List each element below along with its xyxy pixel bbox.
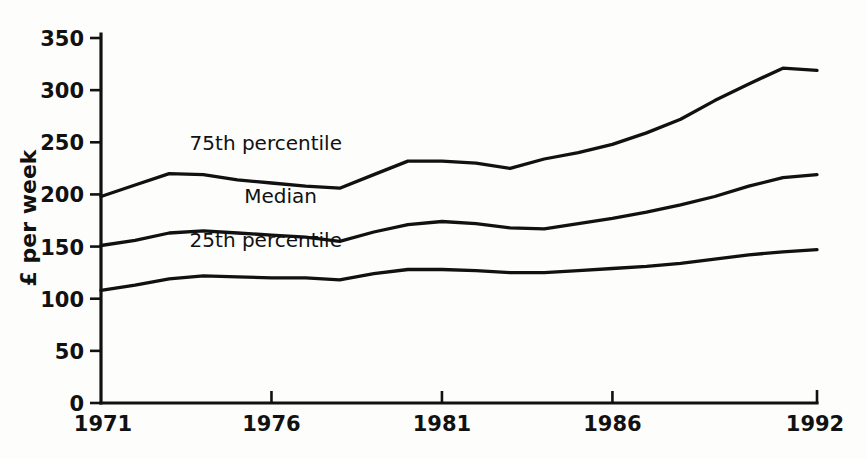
y-axis-ticks: 050100150200250300350 <box>40 27 101 416</box>
y-tick-label: 50 <box>55 340 84 364</box>
x-tick-label: 1976 <box>242 412 300 436</box>
y-tick-label: 200 <box>40 183 84 207</box>
series-label-median: Median <box>244 184 317 208</box>
y-tick-label: 150 <box>40 236 84 260</box>
series-label-25th-percentile: 25th percentile <box>190 228 342 252</box>
x-tick-label: 1986 <box>583 412 641 436</box>
y-tick-label: 100 <box>40 288 84 312</box>
chart-container: £ per week 050100150200250300350 1971197… <box>0 0 867 459</box>
y-axis-title-text: £ per week <box>16 148 41 286</box>
x-tick-label: 1981 <box>413 412 471 436</box>
y-tick-label: 350 <box>40 27 84 51</box>
y-tick-label: 300 <box>40 79 84 103</box>
series-line-25th-percentile <box>101 250 817 291</box>
series-inline-labels: 75th percentileMedian25th percentile <box>190 131 342 252</box>
y-tick-label: 250 <box>40 131 84 155</box>
series-lines <box>101 68 817 290</box>
x-tick-label: 1971 <box>74 412 132 436</box>
y-axis-title: £ per week <box>16 148 41 286</box>
series-label-75th-percentile: 75th percentile <box>190 131 342 155</box>
x-tick-label: 1992 <box>786 412 844 436</box>
x-axis-ticks: 19711976198119861992 <box>74 391 844 436</box>
line-chart: £ per week 050100150200250300350 1971197… <box>0 0 867 459</box>
